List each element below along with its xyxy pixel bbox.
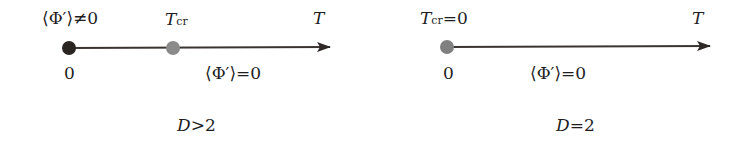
- right-critical-dot: [440, 40, 454, 54]
- right-caption: D=2: [556, 117, 595, 134]
- left-axis-t-label: T: [313, 10, 324, 27]
- right-order-zero-label: ⟨Φ′⟩=0: [530, 65, 586, 82]
- diagram-canvas: [0, 0, 744, 148]
- left-zero-dot: [62, 41, 76, 55]
- left-zero-label: 0: [64, 65, 75, 82]
- right-zero-label: 0: [443, 65, 454, 82]
- left-caption: D>2: [177, 117, 216, 134]
- right-temperature-axis: [447, 46, 710, 47]
- left-order-nonzero-label: ⟨Φ′⟩≠0: [42, 10, 98, 27]
- left-order-zero-label: ⟨Φ′⟩=0: [205, 65, 261, 82]
- right-axis-t-label: T: [692, 10, 703, 27]
- left-tcr-label: Tcr: [165, 11, 188, 28]
- left-temperature-axis: [69, 47, 330, 48]
- right-tcr-label: Tcr=0: [420, 10, 468, 27]
- left-critical-dot: [166, 41, 180, 55]
